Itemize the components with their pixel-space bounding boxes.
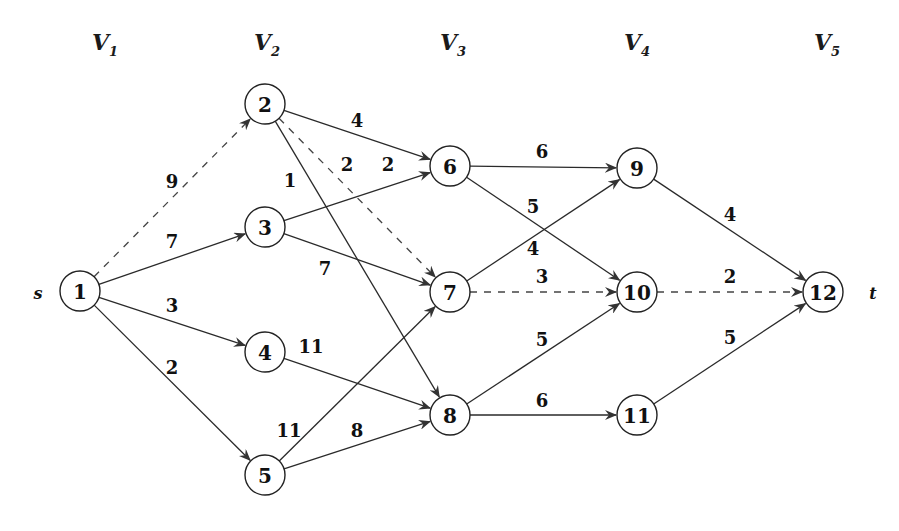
node-1: 1 xyxy=(60,271,100,311)
edge-weight-6-10: 5 xyxy=(527,196,540,217)
edge-weight-5-8: 8 xyxy=(351,420,364,441)
edge-weight-10-12: 2 xyxy=(724,266,737,287)
node-label: 11 xyxy=(623,404,651,428)
edge-weight-2-8: 1 xyxy=(284,170,297,191)
node-6: 6 xyxy=(430,146,470,186)
stage-labels: V1V2V3V4V5 xyxy=(92,29,840,59)
stage-label-v5: V5 xyxy=(814,29,840,59)
node-2: 2 xyxy=(245,84,285,124)
node-3: 3 xyxy=(245,207,285,247)
edge-weight-8-10: 5 xyxy=(536,329,549,350)
stage-label-v3: V3 xyxy=(440,29,466,59)
edge-weight-4-8: 11 xyxy=(298,336,323,357)
edge-weight-2-6: 4 xyxy=(351,110,364,131)
node-9: 9 xyxy=(617,148,657,188)
stage-label-v4: V4 xyxy=(624,29,650,59)
edge-weight-5-7: 11 xyxy=(276,420,301,441)
node-label: 8 xyxy=(443,404,457,428)
edge-weight-1-5: 2 xyxy=(166,357,179,378)
source-label: s xyxy=(32,284,42,303)
node-label: 2 xyxy=(258,93,272,117)
edge-weight-1-3: 7 xyxy=(166,231,179,252)
edge-weight-3-7: 7 xyxy=(319,258,332,279)
edge-weight-9-12: 4 xyxy=(724,204,737,225)
edge-weight-7-10: 3 xyxy=(536,266,549,287)
node-10: 10 xyxy=(617,272,657,312)
node-5: 5 xyxy=(245,455,285,495)
node-label: 12 xyxy=(809,281,837,305)
node-8: 8 xyxy=(430,395,470,435)
edge-weight-3-6: 2 xyxy=(382,154,395,175)
stage-label-v1: V1 xyxy=(92,29,118,59)
node-label: 5 xyxy=(258,464,272,488)
edge-weight-6-9: 6 xyxy=(536,141,549,162)
edge-3-7 xyxy=(284,234,430,285)
edge-weight-7-9: 4 xyxy=(527,238,540,259)
stage-label-v2: V2 xyxy=(254,29,280,59)
edge-weight-11-12: 5 xyxy=(724,327,737,348)
edge-11-12 xyxy=(654,304,806,404)
edge-weight-1-2: 9 xyxy=(166,171,179,192)
node-4: 4 xyxy=(245,332,285,372)
edge-1-2 xyxy=(94,119,250,277)
node-label: 4 xyxy=(258,341,272,365)
multistage-graph: V1V2V3V4V5 97324212711118654356425 12345… xyxy=(0,0,899,531)
node-12: 12 xyxy=(803,272,843,312)
sink-label: t xyxy=(869,284,877,303)
node-label: 7 xyxy=(443,281,457,305)
edge-1-5 xyxy=(94,305,250,460)
node-label: 6 xyxy=(443,155,457,179)
node-label: 9 xyxy=(630,157,644,181)
node-label: 10 xyxy=(623,281,651,305)
edge-weight-2-7: 2 xyxy=(341,154,354,175)
edge-2-7 xyxy=(279,118,435,277)
edge-weight-1-4: 3 xyxy=(166,295,179,316)
nodes: 123456789101112 xyxy=(60,84,843,495)
node-label: 1 xyxy=(73,280,87,304)
node-11: 11 xyxy=(617,395,657,435)
node-7: 7 xyxy=(430,272,470,312)
edge-3-6 xyxy=(284,173,430,221)
edge-weight-8-11: 6 xyxy=(536,390,549,411)
edge-6-9 xyxy=(470,166,616,168)
node-label: 3 xyxy=(258,216,272,240)
